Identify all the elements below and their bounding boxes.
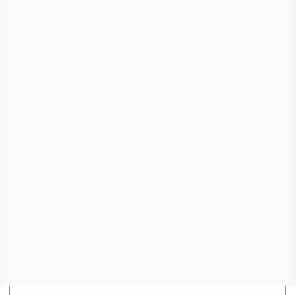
- figure-e-outline: [152, 116, 180, 148]
- figure-label-j: J: [63, 251, 67, 258]
- figure-h: [155, 186, 187, 198]
- figure-f: [198, 116, 212, 148]
- figure-a: [60, 43, 143, 74]
- figure-label-c: C: [63, 154, 68, 161]
- plate-frame-border: [9, 9, 286, 295]
- figure-d: [105, 116, 143, 148]
- figure-label-e: E: [155, 154, 160, 161]
- figure-c-outline: [62, 116, 100, 148]
- figure-d-cross-icon: [131, 118, 141, 146]
- figure-c: [62, 116, 100, 148]
- plate-number: 7: [15, 11, 22, 25]
- figure-j: [62, 234, 92, 246]
- figure-g: [61, 186, 143, 198]
- figure-e: [152, 116, 180, 148]
- figure-b: [157, 43, 240, 74]
- figure-d-divider: [129, 116, 130, 148]
- figure-label-i: I: [202, 203, 204, 210]
- figure-label-b: B: [158, 80, 163, 87]
- figure-i: [200, 185, 234, 199]
- figure-f-outline: [198, 116, 212, 148]
- figure-h-outline: [155, 186, 187, 198]
- figure-g-outline: [61, 186, 143, 198]
- figure-label-d: D: [108, 154, 113, 161]
- figure-a-outline: [60, 43, 143, 74]
- figure-label-f: F: [199, 154, 203, 161]
- figure-i-ribbed-hatching: [202, 187, 232, 198]
- figure-label-h: H: [158, 203, 163, 210]
- figure-label-g: G: [63, 203, 69, 210]
- figure-b-cross-icon: [223, 45, 238, 72]
- figure-b-divider: [221, 43, 222, 74]
- figure-j-outline: [62, 234, 92, 246]
- figure-label-a: A: [61, 80, 66, 87]
